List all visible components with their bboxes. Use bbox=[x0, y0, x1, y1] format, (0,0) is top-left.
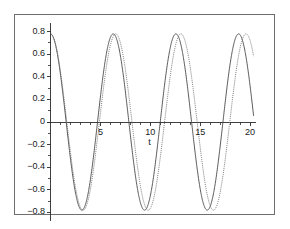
x-tick-label: 10 bbox=[138, 127, 162, 137]
y-tick-label: −0.2 bbox=[12, 139, 45, 149]
x-tick-label: 20 bbox=[238, 127, 262, 137]
y-tick-label: 0.4 bbox=[12, 71, 45, 81]
y-tick-label: 0 bbox=[12, 116, 45, 126]
y-tick-label: 0.6 bbox=[12, 48, 45, 58]
x-tick-label: 15 bbox=[188, 127, 212, 137]
y-tick-label: −0.4 bbox=[12, 161, 45, 171]
y-tick-label: 0.8 bbox=[12, 26, 45, 36]
y-tick-label: −0.8 bbox=[12, 206, 45, 216]
y-tick-label: −0.6 bbox=[12, 184, 45, 194]
chart-figure: 0.80.60.40.20−0.2−0.4−0.6−0.8 5101520 t bbox=[0, 0, 290, 229]
y-tick-label: 0.2 bbox=[12, 93, 45, 103]
x-tick-label: 5 bbox=[88, 127, 112, 137]
x-axis-label: t bbox=[148, 137, 151, 147]
